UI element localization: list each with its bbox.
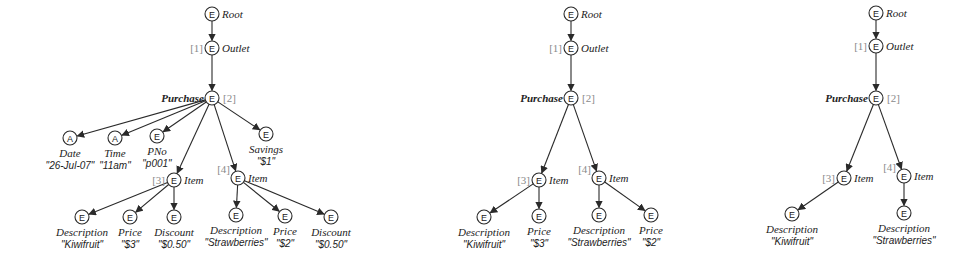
edge-purchase-to-savings <box>218 102 260 130</box>
node-value: "$0.50" <box>315 239 348 250</box>
node-value: "11am" <box>99 160 131 171</box>
node-type-glyph: E <box>873 9 879 19</box>
node-disc4: EDiscount"$0.50" <box>310 210 352 250</box>
node-label: Price <box>526 225 551 237</box>
node-type-glyph: E <box>209 44 215 54</box>
node-label: Purchase <box>825 92 868 104</box>
node-type-glyph: E <box>209 94 215 104</box>
node-label: Time <box>104 147 126 159</box>
tree-description-only: ERootEOutlet[1]EPurchase[2]EItem[3]EItem… <box>765 6 936 247</box>
node-type-glyph: E <box>171 213 177 223</box>
node-price3: EPrice"$3" <box>117 210 142 250</box>
node-label: Description <box>209 224 262 236</box>
node-label: Outlet <box>581 42 609 54</box>
node-date: ADate"26-Jul-07" <box>46 131 95 171</box>
node-label: Price <box>117 226 142 238</box>
node-label: Date <box>58 147 81 159</box>
node-index-label: [1] <box>854 40 867 52</box>
edge-item3-to-desc3 <box>89 183 168 215</box>
node-value: "Kiwifruit" <box>61 239 104 250</box>
node-outlet: EOutlet[1] <box>854 39 914 53</box>
node-price4: EPrice"$2" <box>272 209 297 249</box>
node-type-glyph: A <box>67 134 73 144</box>
tree-description-price: ERootEOutlet[1]EPurchase[2]EItem[3]EItem… <box>457 7 663 250</box>
node-outlet: EOutlet[1] <box>549 41 609 55</box>
node-label: Description <box>877 222 930 234</box>
node-type-glyph: E <box>568 94 574 104</box>
edge-item4-to-price4 <box>605 182 645 211</box>
edge-purchase-to-item3 <box>177 104 209 173</box>
edge-item4-to-price4 <box>243 182 279 211</box>
node-index-label: [4] <box>217 163 230 175</box>
node-type-glyph: E <box>282 212 288 222</box>
edge-item3-to-desc3 <box>490 184 533 213</box>
node-type-glyph: E <box>263 130 269 140</box>
node-label: Outlet <box>222 42 250 54</box>
edge-item3-to-desc3 <box>798 182 838 210</box>
node-value: "Kiwifruit" <box>771 236 814 247</box>
node-label: Item <box>183 174 204 186</box>
node-desc4: EDescription"Strawberries" <box>567 208 631 248</box>
node-value: "$0.50" <box>158 239 191 250</box>
node-outlet: EOutlet[1] <box>190 41 250 55</box>
node-type-glyph: E <box>127 213 133 223</box>
edge-item4-to-desc4 <box>236 185 237 208</box>
node-index-label: [4] <box>883 161 896 173</box>
node-item4: EItem[4] <box>883 161 933 183</box>
node-type-glyph: E <box>789 210 795 220</box>
node-purchase: EPurchase[2] <box>520 91 595 105</box>
node-label: Price <box>272 225 297 237</box>
node-type-glyph: E <box>648 211 654 221</box>
node-purchase: EPurchase[2] <box>161 91 236 105</box>
node-type-glyph: E <box>873 94 879 104</box>
node-desc4: EDescription"Strawberries" <box>872 206 936 246</box>
edge-purchase-to-item3 <box>542 105 569 173</box>
node-index-label: [2] <box>223 92 236 104</box>
node-type-glyph: E <box>568 44 574 54</box>
node-label: Item <box>853 172 874 184</box>
edge-purchase-to-item4 <box>878 105 901 169</box>
node-value: "Strawberries" <box>872 235 936 246</box>
node-label: PNo <box>146 145 167 157</box>
node-disc3: EDiscount"$0.50" <box>153 210 195 250</box>
edge-purchase-to-item4 <box>573 105 596 171</box>
node-type-glyph: E <box>171 176 177 186</box>
node-type-glyph: E <box>536 176 542 186</box>
node-value: "26-Jul-07" <box>46 160 95 171</box>
node-index-label: [3] <box>822 172 835 184</box>
node-desc3: EDescription"Kiwifruit" <box>457 210 510 250</box>
node-index-label: [4] <box>578 163 591 175</box>
node-label: Description <box>457 226 510 238</box>
node-type-glyph: E <box>154 132 160 142</box>
node-index-label: [1] <box>190 42 203 54</box>
node-root: ERoot <box>205 7 244 21</box>
node-value: "Strawberries" <box>204 237 268 248</box>
tree-full-purchase: ERootEOutlet[1]EPurchase[2]ADate"26-Jul-… <box>46 7 352 250</box>
node-label: Outlet <box>886 40 914 52</box>
node-type-glyph: E <box>901 209 907 219</box>
node-value: "$3" <box>121 239 140 250</box>
node-root: ERoot <box>869 6 908 20</box>
node-index-label: [1] <box>549 42 562 54</box>
node-value: "Strawberries" <box>567 237 631 248</box>
edge-purchase-to-item3 <box>847 104 874 171</box>
node-price4: EPrice"$2" <box>638 208 663 248</box>
node-type-glyph: E <box>841 174 847 184</box>
node-index-label: [2] <box>582 92 595 104</box>
node-value: "Kiwifruit" <box>463 239 506 250</box>
node-item3: EItem[3] <box>152 173 203 187</box>
node-label: Purchase <box>161 92 204 104</box>
node-label: Item <box>548 174 569 186</box>
node-desc3: EDescription"Kiwifruit" <box>55 210 108 250</box>
node-type-glyph: E <box>233 211 239 221</box>
node-type-glyph: E <box>568 10 574 20</box>
node-type-glyph: E <box>209 10 215 20</box>
node-value: "$3" <box>530 238 549 249</box>
edge-purchase-to-time <box>122 101 206 135</box>
node-type-glyph: E <box>79 213 85 223</box>
node-type-glyph: E <box>235 174 241 184</box>
edge-purchase-to-date <box>77 100 205 136</box>
xml-tree-diagram: ERootEOutlet[1]EPurchase[2]ADate"26-Jul-… <box>0 0 979 269</box>
node-value: "$2" <box>642 237 661 248</box>
node-label: Description <box>572 224 625 236</box>
